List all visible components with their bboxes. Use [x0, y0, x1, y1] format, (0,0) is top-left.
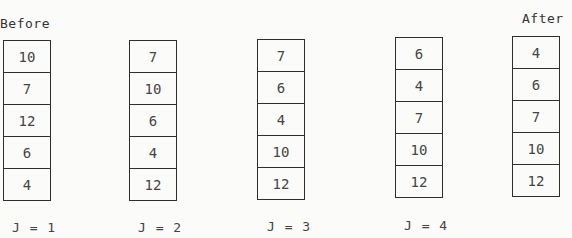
pass-label-2: J = 2: [138, 220, 182, 235]
array-cell: 10: [4, 41, 50, 73]
array-cell: 7: [4, 73, 50, 105]
array-cell: 4: [258, 104, 304, 136]
array-cell: 10: [396, 134, 442, 166]
pass-label-1: J = 1: [12, 220, 56, 235]
array-cell: 7: [130, 41, 176, 73]
before-label: Before: [0, 16, 50, 31]
array-cell: 6: [130, 105, 176, 137]
array-cell: 12: [4, 105, 50, 137]
array-cell: 6: [396, 38, 442, 70]
array-cell: 4: [396, 70, 442, 102]
pass-label-3: J = 3: [267, 219, 311, 234]
array-cell: 10: [130, 73, 176, 105]
array-cell: 4: [513, 37, 559, 69]
array-cell: 6: [513, 69, 559, 101]
array-cell: 6: [4, 137, 50, 169]
array-column-after: 4 6 7 10 12: [512, 36, 560, 197]
array-cell: 7: [513, 101, 559, 133]
array-cell: 10: [513, 133, 559, 165]
array-column-3: 7 6 4 10 12: [257, 39, 305, 200]
array-column-4: 6 4 7 10 12: [395, 37, 443, 198]
after-label: After: [522, 11, 564, 26]
array-cell: 12: [513, 165, 559, 196]
array-cell: 4: [4, 169, 50, 200]
array-cell: 7: [396, 102, 442, 134]
array-cell: 7: [258, 40, 304, 72]
array-cell: 12: [258, 168, 304, 199]
pass-label-4: J = 4: [404, 218, 448, 233]
array-cell: 12: [396, 166, 442, 197]
array-cell: 12: [130, 169, 176, 200]
array-cell: 6: [258, 72, 304, 104]
array-cell: 10: [258, 136, 304, 168]
array-cell: 4: [130, 137, 176, 169]
array-column-2: 7 10 6 4 12: [129, 40, 177, 201]
array-column-1: 10 7 12 6 4: [3, 40, 51, 201]
